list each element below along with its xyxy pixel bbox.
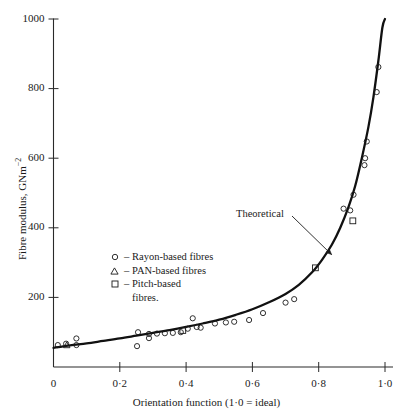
theoretical-curve-path xyxy=(54,19,386,348)
y-tick-label: 800 xyxy=(0,81,45,93)
data-point-circle xyxy=(170,330,175,335)
data-point-circle xyxy=(232,319,237,324)
legend-item-continuation: fibres. xyxy=(108,291,213,305)
x-axis-title: Orientation function (1·0 = ideal) xyxy=(0,396,413,408)
legend-square-icon xyxy=(108,277,121,288)
annotation-arrow-line xyxy=(292,216,332,255)
x-tick-label: 0·6 xyxy=(227,377,277,389)
data-point-circle xyxy=(363,156,368,161)
y-tick-label: 1000 xyxy=(0,12,45,24)
data-point-circle xyxy=(283,300,288,305)
legend-item: –PAN-based fibres xyxy=(108,264,213,278)
x-tick-label: 0·8 xyxy=(294,377,344,389)
x-tick-label: 0·2 xyxy=(95,377,145,389)
legend-triangle-icon xyxy=(108,264,121,275)
chart-plot-area xyxy=(0,0,413,416)
legend-dash: – xyxy=(121,250,132,264)
data-point-circle xyxy=(190,316,195,321)
legend-label: Pitch-based xyxy=(132,277,181,291)
x-tick-label: 1·0 xyxy=(360,377,410,389)
legend-label: PAN-based fibres xyxy=(132,264,206,278)
legend-label: Rayon-based fibres xyxy=(132,250,213,264)
chart-legend: –Rayon-based fibres–PAN-based fibres–Pit… xyxy=(108,250,213,304)
legend-item: –Pitch-based xyxy=(108,277,213,291)
data-point-circle xyxy=(74,336,79,341)
data-point-circle xyxy=(246,317,251,322)
y-axis-title: Fibre modulus, GNm−2 xyxy=(14,158,28,260)
x-tick-label: 0·4 xyxy=(161,377,211,389)
annotation-arrow xyxy=(292,216,332,255)
legend-item: –Rayon-based fibres xyxy=(108,250,213,264)
figure-container: 2004006008001000 00·20·40·60·81·0 Fibre … xyxy=(0,0,413,416)
legend-circle-icon xyxy=(108,250,121,261)
theoretical-curve xyxy=(54,19,386,348)
y-axis-title-exponent: −2 xyxy=(14,158,23,166)
y-tick-label: 200 xyxy=(0,290,45,302)
data-point-circle xyxy=(223,320,228,325)
legend-dash: – xyxy=(121,264,132,278)
data-point-circle xyxy=(135,330,140,335)
y-axis-title-text: Fibre modulus, GNm xyxy=(16,166,28,260)
data-point-circle xyxy=(260,310,265,315)
data-point-circle xyxy=(292,297,297,302)
legend-label-continuation: fibres. xyxy=(132,291,159,305)
data-point-square xyxy=(350,218,356,224)
data-point-circle xyxy=(362,163,367,168)
x-tick-label: 0 xyxy=(29,377,79,389)
data-point-circle xyxy=(178,330,183,335)
theoretical-annotation-label: Theoretical xyxy=(236,208,284,219)
data-point-circle xyxy=(341,206,346,211)
data-points-group xyxy=(55,64,381,348)
legend-dash: – xyxy=(121,277,132,291)
data-point-circle xyxy=(134,344,139,349)
